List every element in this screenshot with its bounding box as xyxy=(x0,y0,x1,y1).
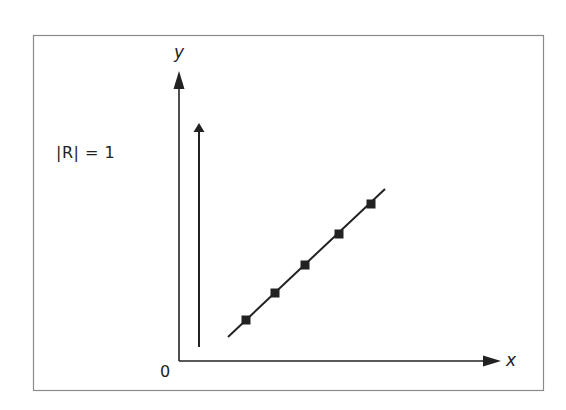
data-point xyxy=(367,200,376,209)
direction-arrow-head-icon xyxy=(194,123,205,132)
data-point xyxy=(335,230,344,239)
diagram-canvas xyxy=(0,0,566,410)
data-point xyxy=(301,261,310,270)
x-axis-label: x xyxy=(506,350,516,370)
correlation-label: |R| = 1 xyxy=(56,143,115,162)
data-point xyxy=(242,316,251,325)
origin-label: 0 xyxy=(160,362,170,381)
frame-border xyxy=(34,36,544,391)
data-point xyxy=(271,289,280,298)
y-axis-label: y xyxy=(174,42,184,62)
x-axis-arrowhead-icon xyxy=(483,356,501,367)
y-axis-arrowhead-icon xyxy=(174,71,185,89)
